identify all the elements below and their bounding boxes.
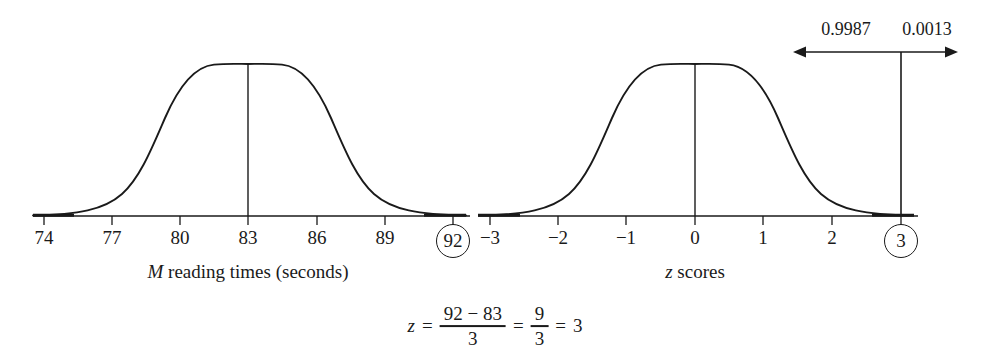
right-axis-ticks bbox=[490, 216, 901, 225]
left-tick-label-80: 80 bbox=[150, 228, 210, 247]
right-axis-caption: z scores bbox=[665, 262, 725, 281]
formula-fraction-1: 92 − 83 3 bbox=[440, 303, 506, 349]
left-tick-label-89: 89 bbox=[355, 228, 415, 247]
area-above-arrowhead-icon bbox=[945, 47, 958, 58]
formula-numerator-1: 92 − 83 bbox=[440, 303, 506, 325]
formula-fraction-2: 9 3 bbox=[531, 303, 549, 349]
right-tick-label-minus-2: −2 bbox=[528, 228, 588, 247]
left-tick-label-86: 86 bbox=[287, 228, 347, 247]
left-tick-label-74: 74 bbox=[14, 228, 74, 247]
right-tick-label-1: 1 bbox=[733, 228, 793, 247]
left-axis-ticks bbox=[44, 216, 453, 225]
z-score-formula: z = 92 − 83 3 = 9 3 = 3 bbox=[408, 303, 583, 349]
left-tick-label-77: 77 bbox=[82, 228, 142, 247]
left-tick-label-83: 83 bbox=[218, 228, 278, 247]
formula-denominator-1: 3 bbox=[464, 327, 482, 349]
probability-above-label: 0.0013 bbox=[902, 20, 952, 38]
right-tick-label-2: 2 bbox=[802, 228, 862, 247]
formula-equals-3: = bbox=[555, 316, 566, 335]
right-tick-label-minus-1: −1 bbox=[596, 228, 656, 247]
formula-numerator-2: 9 bbox=[531, 303, 549, 325]
right-tick-label-3-highlighted: 3 bbox=[884, 224, 918, 258]
formula-denominator-2: 3 bbox=[531, 327, 549, 349]
right-normal-curve bbox=[480, 64, 913, 216]
formula-result: 3 bbox=[573, 316, 583, 335]
probability-below-label: 0.9987 bbox=[821, 20, 871, 38]
right-tick-label-0: 0 bbox=[665, 228, 725, 247]
formula-variable: z bbox=[408, 316, 415, 335]
right-axis-caption-text: scores bbox=[673, 261, 725, 282]
right-tick-label-minus-3: −3 bbox=[460, 228, 520, 247]
formula-equals-2: = bbox=[513, 316, 524, 335]
left-axis-caption-symbol: M bbox=[147, 261, 163, 282]
right-chart-group bbox=[478, 47, 958, 226]
formula-equals-1: = bbox=[422, 316, 433, 335]
left-axis-caption: M reading times (seconds) bbox=[147, 262, 348, 281]
left-normal-curve bbox=[33, 64, 466, 216]
area-below-arrowhead-icon bbox=[793, 47, 806, 58]
left-chart-group bbox=[33, 64, 470, 225]
left-axis-caption-text: reading times (seconds) bbox=[163, 261, 348, 282]
statistics-figure: 74 77 80 83 86 89 92 −3 −2 −1 0 1 2 3 M … bbox=[0, 0, 990, 364]
